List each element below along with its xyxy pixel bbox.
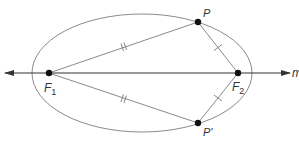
double-tick-f1-p: [121, 43, 127, 52]
single-tick-pprime-f2: [214, 95, 222, 101]
point-f1: [46, 70, 52, 76]
ellipse-diagram: F1 F2 P P' m: [0, 0, 299, 144]
double-tick-f1-pprime: [121, 95, 127, 104]
segment-f1-p: [49, 22, 198, 73]
label-pprime: P': [203, 126, 213, 138]
label-p: P: [203, 7, 211, 19]
label-f2: F2: [232, 80, 244, 96]
point-pprime: [195, 120, 201, 126]
point-f2: [235, 70, 241, 76]
label-f1: F1: [44, 81, 56, 97]
single-tick-p-f2: [214, 45, 222, 51]
point-p: [195, 19, 201, 25]
label-axis-m: m: [292, 66, 299, 80]
segment-f1-pprime: [49, 73, 198, 123]
